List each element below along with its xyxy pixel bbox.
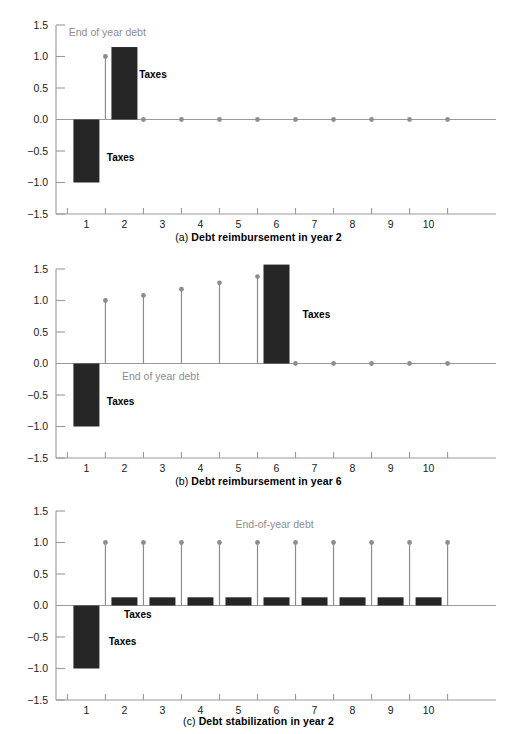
x-tick-label: 9 [388,462,394,474]
x-tick-label: 6 [274,462,280,474]
y-tick-label: −0.5 [27,389,48,401]
taxes-label-negative: Taxes [107,396,135,407]
panel-c-stem-series [103,540,450,605]
stem-marker [141,293,146,298]
x-tick-label: 6 [274,704,280,716]
panel-b-caption-text: Debt reimbursement in year 6 [191,475,341,487]
stem-marker [255,117,260,122]
x-tick-label: 4 [198,462,204,474]
y-tick-label: −1.5 [27,694,48,706]
bar [264,597,290,605]
stem-marker [141,117,146,122]
bar [378,597,404,605]
panel-c-caption-index: (c) [183,715,196,727]
panel-b-svg: 1.51.00.50.0−0.5−1.0−1.512345678910End o… [0,247,517,493]
end-of-year-debt-label: End-of-year debt [235,518,313,530]
stem-marker [331,540,336,545]
stem-marker [445,117,450,122]
bar [264,265,290,364]
x-tick-label: 3 [160,462,166,474]
bar [73,606,99,669]
taxes-label-negative: Taxes [107,152,135,163]
stem-marker [217,540,222,545]
bar [340,597,366,605]
taxes-label-positive: Taxes [139,69,167,80]
stem-marker [331,361,336,366]
y-tick-label: 1.0 [33,536,48,548]
stem-marker [407,361,412,366]
y-tick-label: 1.5 [33,505,48,517]
plot-area-c: 1.51.00.50.0−0.5−1.0−1.512345678910End-o… [0,493,517,734]
taxes-label-negative: Taxes [109,636,137,647]
stem-marker [407,540,412,545]
x-tick-label: 3 [160,704,166,716]
stem-marker [255,540,260,545]
panel-a-caption-index: (a) [175,231,188,243]
x-tick-label: 10 [423,704,435,716]
y-tick-label: 0.0 [33,113,48,125]
panel-b-caption: (b) Debt reimbursement in year 6 [0,475,517,487]
y-tick-label: 0.5 [33,82,48,94]
panel-c-bar-series [73,597,441,668]
panel-a-svg: 1.51.00.50.0−0.5−1.0−1.512345678910End o… [0,0,517,250]
y-tick-label: 0.5 [33,568,48,580]
x-tick-label: 2 [122,704,128,716]
y-tick-label: −0.5 [27,145,48,157]
y-tick-label: 1.0 [33,294,48,306]
x-tick-label: 7 [312,462,318,474]
bar [302,597,328,605]
taxes-label-positive: Taxes [303,309,331,320]
y-tick-label: −1.0 [27,176,48,188]
bar [225,597,251,605]
y-tick-label: −0.5 [27,631,48,643]
stem-marker [445,361,450,366]
stem-marker [179,287,184,292]
panel-b-caption-index: (b) [175,475,188,487]
plot-area-a: 1.51.00.50.0−0.5−1.0−1.512345678910End o… [0,0,517,250]
panel-c-annotations: End-of-year debtTaxesTaxes [109,518,314,647]
panel-c-caption-text: Debt stabilization in year 2 [199,715,334,727]
stem-marker [445,540,450,545]
chart-panel-c: 1.51.00.50.0−0.5−1.0−1.512345678910End-o… [0,493,517,734]
x-tick-label: 6 [274,218,280,230]
panel-a-caption-text: Debt reimbursement in year 2 [191,231,341,243]
y-tick-label: 0.5 [33,326,48,338]
stem-marker [293,361,298,366]
stem-marker [293,540,298,545]
y-tick-label: 0.0 [33,599,48,611]
stem-marker [141,540,146,545]
y-tick-label: 0.0 [33,357,48,369]
y-tick-label: 1.0 [33,50,48,62]
x-tick-label: 7 [312,218,318,230]
x-tick-label: 5 [236,218,242,230]
stem-marker [369,361,374,366]
stem-marker [103,298,108,303]
x-tick-label: 5 [236,704,242,716]
x-tick-label: 8 [350,218,356,230]
x-tick-label: 9 [388,218,394,230]
bar [416,597,442,605]
x-tick-label: 7 [312,704,318,716]
y-tick-label: 1.5 [33,263,48,275]
x-tick-label: 3 [160,218,166,230]
stem-marker [407,117,412,122]
stem-marker [179,540,184,545]
stem-marker [103,54,108,59]
chart-panel-a: 1.51.00.50.0−0.5−1.0−1.512345678910End o… [0,0,517,250]
x-tick-label: 10 [423,462,435,474]
bar [187,597,213,605]
end-of-year-debt-label: End of year debt [122,370,199,382]
x-tick-label: 8 [350,704,356,716]
end-of-year-debt-label: End of year debt [69,26,146,38]
x-tick-label: 4 [198,218,204,230]
taxes-label-upper: Taxes [124,609,152,620]
x-tick-label: 10 [423,218,435,230]
stem-marker [369,540,374,545]
stem-marker [217,280,222,285]
bar [73,120,99,183]
x-tick-label: 2 [122,462,128,474]
bar [73,364,99,427]
x-tick-label: 5 [236,462,242,474]
panel-c-caption: (c) Debt stabilization in year 2 [0,715,517,727]
stem-marker [369,117,374,122]
